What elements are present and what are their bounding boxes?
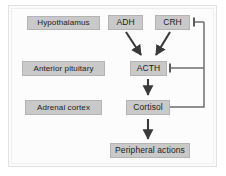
arrow-adh-to-acth	[126, 32, 141, 55]
connector-layer	[0, 0, 226, 176]
feedback-inhibition-cortisol-to-crh	[194, 18, 204, 27]
arrow-crh-to-acth	[156, 32, 170, 55]
feedback-inhibition-cortisol-to-acth	[170, 64, 204, 73]
feedback-line-cortisol-riser	[170, 22, 204, 107]
figure-canvas: Hypothalamus Anterior pituitary Adrenal …	[0, 0, 226, 176]
